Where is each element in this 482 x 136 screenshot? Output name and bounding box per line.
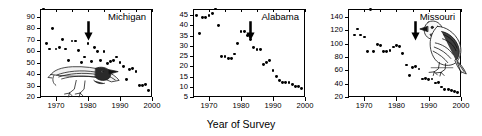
data-point xyxy=(379,44,382,47)
x-minor-tick-top xyxy=(72,9,73,12)
y-tick-mark xyxy=(345,97,349,98)
data-point xyxy=(195,14,198,17)
x-minor-tick-top xyxy=(104,9,105,12)
y-tick-mark xyxy=(190,87,194,88)
y-tick-mark xyxy=(190,36,194,37)
x-tick-label: 1990 xyxy=(260,102,286,110)
arrow-annotation xyxy=(246,21,255,41)
x-minor-tick-top xyxy=(305,9,306,12)
y-tick-label: 120 xyxy=(327,26,343,34)
data-point xyxy=(147,89,150,92)
x-minor-tick-top xyxy=(56,9,57,12)
x-tick-label: 1980 xyxy=(228,102,254,110)
y-tick-label: 60 xyxy=(327,66,343,74)
y-tick-mark xyxy=(37,51,41,52)
panel-title-michigan: Michigan xyxy=(108,11,146,22)
x-minor-tick-top xyxy=(461,9,462,12)
y-tick-mark xyxy=(37,74,41,75)
x-tick-mark xyxy=(429,97,430,101)
x-minor-tick-top xyxy=(445,9,446,12)
y-tick-mark xyxy=(190,15,194,16)
y-tick-mark xyxy=(37,97,41,98)
y-tick-mark xyxy=(37,86,41,87)
y-tick-label: 5 xyxy=(172,93,188,101)
data-point xyxy=(198,32,201,35)
y-tick-label: 100 xyxy=(327,40,343,48)
y-tick-mark xyxy=(345,70,349,71)
x-minor-tick-top xyxy=(396,9,397,12)
x-minor-tick-top xyxy=(40,9,41,12)
y-tick-label: 20 xyxy=(327,93,343,101)
data-point xyxy=(217,24,220,27)
x-tick-label: 1970 xyxy=(43,102,69,110)
x-tick-mark xyxy=(241,97,242,101)
data-point xyxy=(230,57,233,60)
x-tick-mark xyxy=(273,97,274,101)
y-tick-mark xyxy=(190,25,194,26)
y-tick-label: 90 xyxy=(19,13,35,21)
x-tick-label: 1970 xyxy=(351,102,377,110)
panel-alabama: Alabama 51015202530354045197019801990200… xyxy=(193,9,305,97)
panel-title-alabama: Alabama xyxy=(262,11,300,22)
x-minor-tick-top xyxy=(88,9,89,12)
x-minor-tick-top xyxy=(364,9,365,12)
x-tick-mark xyxy=(396,97,397,101)
house-sparrow-illustration-wrapper xyxy=(410,14,472,76)
data-point xyxy=(220,55,223,58)
x-tick-label: 1980 xyxy=(75,102,101,110)
x-minor-tick-top xyxy=(193,9,194,12)
x-minor-tick-top xyxy=(209,9,210,12)
data-point xyxy=(366,50,369,53)
x-minor-tick-top xyxy=(273,9,274,12)
data-point xyxy=(96,50,99,53)
x-tick-label: 2000 xyxy=(292,102,318,110)
x-minor-tick-top xyxy=(289,9,290,12)
y-tick-mark xyxy=(345,84,349,85)
y-tick-mark xyxy=(190,46,194,47)
y-tick-mark xyxy=(37,28,41,29)
figure-house-sparrow-trends: House Sparrows per Route Year of Survey … xyxy=(0,0,482,136)
x-tick-label: 2000 xyxy=(448,102,474,110)
y-tick-label: 45 xyxy=(172,11,188,19)
x-minor-tick-top xyxy=(429,9,430,12)
x-tick-mark xyxy=(209,97,210,101)
x-minor-tick-top xyxy=(225,9,226,12)
arrow-annotation-icon xyxy=(246,21,255,41)
y-tick-mark xyxy=(345,57,349,58)
y-tick-mark xyxy=(37,17,41,18)
x-minor-tick-top xyxy=(241,9,242,12)
data-point xyxy=(45,42,48,45)
data-point xyxy=(144,83,147,86)
y-tick-label: 80 xyxy=(19,24,35,32)
x-tick-mark xyxy=(88,97,89,101)
data-point xyxy=(211,12,214,15)
x-tick-mark xyxy=(364,97,365,101)
house-sparrow-illustration xyxy=(47,55,125,97)
y-tick-mark xyxy=(190,97,194,98)
y-tick-mark xyxy=(345,44,349,45)
x-tick-label: 1990 xyxy=(416,102,442,110)
y-tick-label: 20 xyxy=(19,93,35,101)
panel-michigan: Michigan 2030405060708090197019801990200… xyxy=(40,9,152,97)
arrow-annotation-icon xyxy=(84,21,93,41)
x-minor-tick-top xyxy=(380,9,381,12)
y-tick-mark xyxy=(190,77,194,78)
y-tick-label: 70 xyxy=(19,36,35,44)
x-minor-tick-top xyxy=(257,9,258,12)
y-tick-label: 40 xyxy=(172,21,188,29)
y-tick-label: 140 xyxy=(327,13,343,21)
x-tick-mark xyxy=(152,97,153,101)
house-sparrow-illustration xyxy=(410,14,472,76)
x-tick-mark xyxy=(305,97,306,101)
arrow-annotation xyxy=(84,21,93,41)
y-tick-label: 10 xyxy=(172,83,188,91)
y-tick-label: 35 xyxy=(172,32,188,40)
x-tick-mark xyxy=(120,97,121,101)
y-tick-mark xyxy=(345,30,349,31)
y-tick-mark xyxy=(37,40,41,41)
x-minor-tick-top xyxy=(152,9,153,12)
data-point xyxy=(77,49,80,52)
y-tick-label: 40 xyxy=(19,70,35,78)
x-tick-label: 1990 xyxy=(107,102,133,110)
y-tick-label: 30 xyxy=(19,82,35,90)
